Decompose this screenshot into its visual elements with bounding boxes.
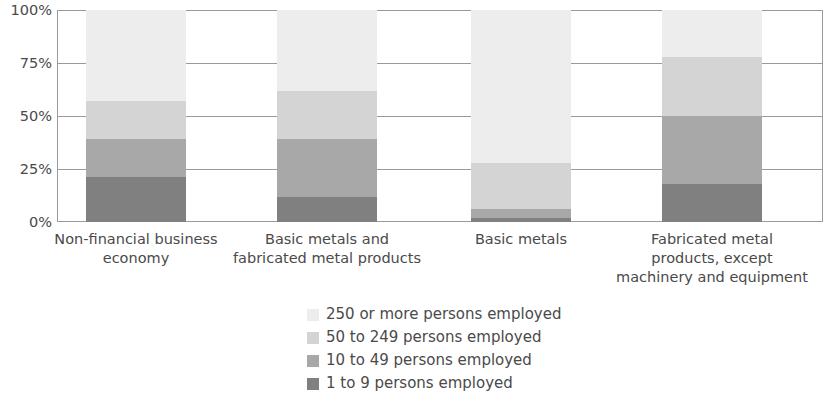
legend-swatch-icon <box>307 355 319 367</box>
bar-1-segment-4 <box>86 10 186 101</box>
bar-3[interactable] <box>471 10 571 222</box>
y-tick-label-100: 100% <box>0 3 52 18</box>
category-label-3: Basic metals <box>421 230 621 249</box>
legend-label: 10 to 49 persons employed <box>326 353 532 368</box>
bar-4-segment-2 <box>662 116 762 184</box>
y-tick-label-50: 50% <box>0 109 52 124</box>
y-tick-label-25: 25% <box>0 162 52 177</box>
y-tick-label-0: 0% <box>0 215 52 230</box>
legend-swatch-icon <box>307 378 319 390</box>
bar-4-segment-3 <box>662 57 762 116</box>
bar-2-segment-1 <box>277 197 377 222</box>
legend: 250 or more persons employed50 to 249 pe… <box>307 303 727 395</box>
bar-1[interactable] <box>86 10 186 222</box>
y-axis: 100% 75% 50% 25% 0% <box>0 0 52 232</box>
legend-label: 50 to 249 persons employed <box>326 330 541 345</box>
legend-label: 1 to 9 persons employed <box>326 376 513 391</box>
category-label-line: products, except <box>612 249 812 268</box>
y-tick-label-75: 75% <box>0 56 52 71</box>
bar-3-segment-1 <box>471 218 571 222</box>
bar-2-segment-4 <box>277 10 377 91</box>
bar-2-segment-3 <box>277 91 377 140</box>
legend-swatch-icon <box>307 332 319 344</box>
bar-3-segment-3 <box>471 163 571 210</box>
bars-layer <box>57 10 823 222</box>
bar-1-segment-2 <box>86 139 186 177</box>
category-label-line: economy <box>36 249 236 268</box>
bar-2-segment-2 <box>277 139 377 196</box>
category-label-line: Basic metals <box>421 230 621 249</box>
legend-item-1[interactable]: 250 or more persons employed <box>307 303 727 326</box>
category-label-line: Basic metals and <box>227 230 427 249</box>
category-label-1: Non-financial businesseconomy <box>36 230 236 268</box>
bar-2[interactable] <box>277 10 377 222</box>
category-label-2: Basic metals andfabricated metal product… <box>227 230 427 268</box>
bar-1-segment-1 <box>86 177 186 222</box>
category-label-line: machinery and equipment <box>612 268 812 287</box>
legend-item-3[interactable]: 10 to 49 persons employed <box>307 349 727 372</box>
legend-item-4[interactable]: 1 to 9 persons employed <box>307 372 727 395</box>
bar-4[interactable] <box>662 10 762 222</box>
bar-4-segment-1 <box>662 184 762 222</box>
category-label-4: Fabricated metalproducts, exceptmachiner… <box>612 230 812 287</box>
category-axis: Non-financial businesseconomyBasic metal… <box>57 230 823 300</box>
legend-label: 250 or more persons employed <box>326 307 561 322</box>
legend-item-2[interactable]: 50 to 249 persons employed <box>307 326 727 349</box>
category-label-line: Fabricated metal <box>612 230 812 249</box>
bar-1-segment-3 <box>86 101 186 139</box>
bar-4-segment-4 <box>662 10 762 57</box>
legend-swatch-icon <box>307 309 319 321</box>
category-label-line: fabricated metal products <box>227 249 427 268</box>
bar-3-segment-2 <box>471 209 571 217</box>
bar-3-segment-4 <box>471 10 571 163</box>
category-label-line: Non-financial business <box>36 230 236 249</box>
stacked-bar-chart: 100% 75% 50% 25% 0% Non-financial busine… <box>0 0 829 397</box>
